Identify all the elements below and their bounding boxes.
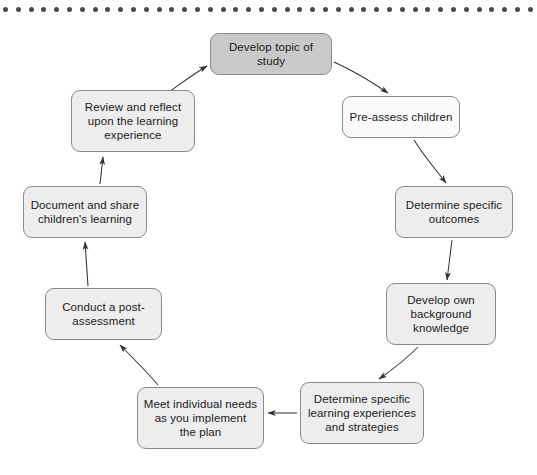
node-label-line: knowledge — [407, 321, 475, 335]
edge-develop-topic-to-pre-assess — [334, 62, 388, 93]
node-label-line: Develop own — [407, 293, 475, 307]
edge-post-assessment-to-document-and-share — [85, 242, 88, 286]
node-develop-topic-of-study: Develop topic of study — [210, 33, 332, 75]
node-label-line: outcomes — [406, 212, 502, 226]
edge-pre-assess-to-determine-outcomes — [414, 140, 446, 183]
node-label-line: the plan — [144, 425, 257, 439]
node-label: Document and sharechildren's learning — [31, 198, 140, 226]
node-label-line: Document and share — [31, 198, 140, 212]
node-label-line: as you implement — [144, 411, 257, 425]
node-label: Meet individual needsas you implementthe… — [144, 397, 257, 439]
node-label-line: upon the learning — [85, 114, 181, 128]
node-label: Conduct a post-assessment — [62, 300, 145, 328]
node-determine-specific-learning-experiences-and-strategies: Determine specificlearning experiencesan… — [300, 382, 424, 444]
edge-review-and-reflect-to-develop-topic — [169, 66, 207, 92]
node-label: Determine specificoutcomes — [406, 198, 502, 226]
node-label-line: Meet individual needs — [144, 397, 257, 411]
node-conduct-a-post-assessment: Conduct a post-assessment — [45, 288, 162, 340]
node-label-line: Conduct a post- — [62, 300, 145, 314]
node-label-line: experience — [85, 128, 181, 142]
edge-determine-outcomes-to-background-knowledge — [447, 240, 452, 280]
node-label: Develop topic of study — [215, 40, 327, 68]
node-label-line: Pre-assess children — [350, 110, 453, 124]
node-review-and-reflect-upon-the-learning-experience: Review and reflectupon the learningexper… — [71, 90, 195, 152]
node-label: Develop ownbackgroundknowledge — [407, 293, 475, 335]
node-label-line: learning experiences — [308, 406, 416, 420]
node-determine-specific-outcomes: Determine specificoutcomes — [395, 186, 513, 238]
edge-background-knowledge-to-learning-experiences — [379, 347, 418, 379]
node-label-line: assessment — [62, 314, 145, 328]
node-label-line: Determine specific — [406, 198, 502, 212]
edge-document-and-share-to-review-and-reflect — [100, 157, 103, 184]
node-meet-individual-needs-as-you-implement-the-plan: Meet individual needsas you implementthe… — [137, 387, 264, 449]
node-label: Determine specificlearning experiencesan… — [308, 392, 416, 434]
node-label-line: background — [407, 307, 475, 321]
node-label-line: children's learning — [31, 212, 140, 226]
diagram-page: Develop topic of studyPre-assess childre… — [0, 0, 537, 475]
node-label-line: and strategies — [308, 420, 416, 434]
edge-meet-individual-needs-to-post-assessment — [120, 345, 158, 385]
node-develop-own-background-knowledge: Develop ownbackgroundknowledge — [386, 283, 496, 345]
node-label: Pre-assess children — [350, 110, 453, 124]
node-label: Review and reflectupon the learningexper… — [85, 100, 181, 142]
node-label-line: Review and reflect — [85, 100, 181, 114]
node-document-and-share-childrens-learning: Document and sharechildren's learning — [23, 186, 147, 238]
node-pre-assess-children: Pre-assess children — [342, 96, 460, 138]
node-label-line: Develop topic of study — [215, 40, 327, 68]
node-label-line: Determine specific — [308, 392, 416, 406]
